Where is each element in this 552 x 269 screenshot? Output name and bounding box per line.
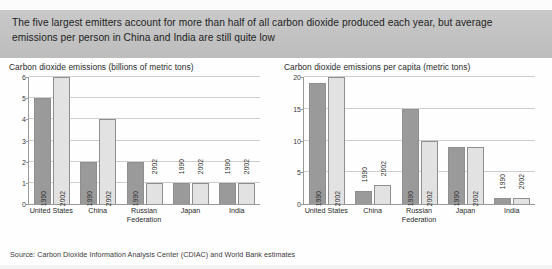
bar: 1990: [494, 198, 511, 204]
bar: 1990: [173, 183, 190, 204]
plot-area: 0510152019902002199020021990200219902002…: [303, 77, 535, 205]
chart-title: Carbon dioxide emissions (billions of me…: [9, 62, 260, 72]
bar-group: 19902002: [214, 77, 260, 204]
bar-group: 19902002: [121, 77, 167, 204]
chart-title: Carbon dioxide emissions per capita (met…: [284, 62, 535, 72]
y-axis-tick-label: 10: [293, 137, 301, 144]
category-label: Russian Federation: [396, 205, 442, 225]
category-label: Japan: [167, 205, 213, 225]
chart-total-emissions: Carbon dioxide emissions (billions of me…: [8, 62, 260, 225]
category-label: India: [489, 205, 535, 225]
bar: 2002: [53, 77, 70, 204]
bar-year-label: 2002: [151, 159, 158, 174]
plot-wrapper: 0123456199020021990200219902002199020021…: [8, 77, 260, 225]
bar-year-label: 2002: [104, 191, 111, 206]
bar-groups: 1990200219902002199020021990200219902002: [29, 77, 260, 204]
source-note: Source: Carbon Dioxide Information Analy…: [10, 250, 295, 259]
bar-group: 19902002: [29, 77, 75, 204]
bar-group: 19902002: [443, 77, 489, 204]
bar: 1990: [309, 83, 326, 204]
chart-per-capita-emissions: Carbon dioxide emissions per capita (met…: [283, 62, 535, 225]
bar: 1990: [402, 109, 419, 204]
bar-year-label: 2002: [426, 191, 433, 206]
y-axis-tick-label: 15: [293, 105, 301, 112]
bar-year-label: 1990: [39, 191, 46, 206]
bar-year-label: 2002: [333, 191, 340, 206]
bar: 1990: [34, 98, 51, 204]
bar-group: 19902002: [396, 77, 442, 204]
bar: 2002: [146, 183, 163, 204]
bar: 2002: [328, 77, 345, 204]
bar-year-label: 2002: [379, 161, 386, 176]
bar: 2002: [421, 141, 438, 205]
figure-page: The five largest emitters account for mo…: [0, 0, 552, 269]
category-label: United States: [28, 205, 74, 225]
bar-year-label: 1990: [453, 191, 460, 206]
bar-year-label: 2002: [243, 159, 250, 174]
bar: 1990: [355, 191, 372, 204]
category-label: India: [214, 205, 260, 225]
bar-group: 19902002: [75, 77, 121, 204]
bar-group: 19902002: [304, 77, 350, 204]
bar-groups: 1990200219902002199020021990200219902002: [304, 77, 535, 204]
category-label: Japan: [442, 205, 488, 225]
y-axis-tick-label: 20: [293, 74, 301, 81]
plot-wrapper: 0510152019902002199020021990200219902002…: [283, 77, 535, 225]
page-top-edge: [0, 0, 552, 10]
bar-group: 19902002: [168, 77, 214, 204]
bar-year-label: 2002: [58, 191, 65, 206]
bar-year-label: 1990: [132, 191, 139, 206]
bar: 1990: [80, 162, 97, 204]
category-axis: United StatesChinaRussian FederationJapa…: [303, 205, 535, 225]
bar: 2002: [238, 183, 255, 204]
bar-year-label: 2002: [518, 173, 525, 188]
plot-area: 0123456199020021990200219902002199020021…: [28, 77, 260, 205]
bar-year-label: 1990: [499, 173, 506, 188]
bar: 2002: [99, 119, 116, 204]
bar-group: 19902002: [489, 77, 535, 204]
category-label: United States: [303, 205, 349, 225]
bar-year-label: 1990: [360, 167, 367, 182]
category-label: China: [74, 205, 120, 225]
bar-year-label: 1990: [314, 191, 321, 206]
bar-year-label: 1990: [224, 159, 231, 174]
page-bottom-edge: [0, 265, 552, 269]
bar: 2002: [192, 183, 209, 204]
headline-banner: The five largest emitters account for mo…: [0, 10, 552, 58]
bar-year-label: 1990: [85, 191, 92, 206]
bar-year-label: 1990: [178, 159, 185, 174]
bar: 1990: [448, 147, 465, 204]
category-label: China: [349, 205, 395, 225]
headline-text: The five largest emitters account for mo…: [12, 16, 538, 45]
bar-year-label: 1990: [407, 191, 414, 206]
bar: 2002: [374, 185, 391, 204]
category-axis: United StatesChinaRussian FederationJapa…: [28, 205, 260, 225]
category-label: Russian Federation: [121, 205, 167, 225]
bar: 1990: [219, 183, 236, 204]
bar: 2002: [513, 198, 530, 204]
bar: 1990: [127, 162, 144, 204]
bar: 2002: [467, 147, 484, 204]
bar-year-label: 2002: [197, 159, 204, 174]
bar-year-label: 2002: [472, 191, 479, 206]
bar-group: 19902002: [350, 77, 396, 204]
